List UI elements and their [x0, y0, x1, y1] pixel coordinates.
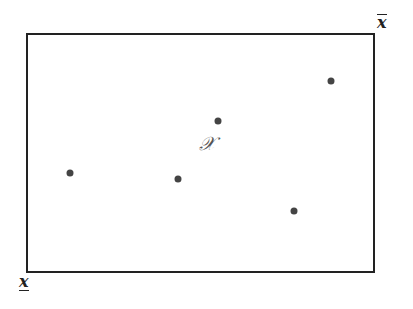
upper-bound-label: x	[377, 14, 387, 30]
sample-point	[291, 208, 298, 215]
sample-point	[175, 176, 182, 183]
sample-point	[328, 78, 335, 85]
set-label: 𝒳	[199, 132, 215, 155]
sample-point	[215, 118, 222, 125]
lower-bound-label: x	[19, 275, 29, 291]
diagram-canvas: 𝒳 x x	[0, 0, 413, 309]
sample-point	[67, 170, 74, 177]
